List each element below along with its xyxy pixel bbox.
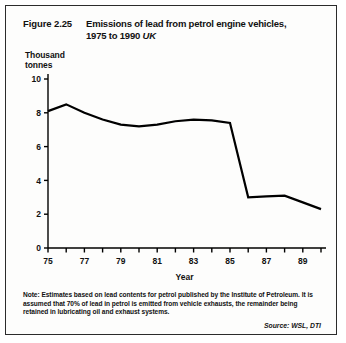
y-axis-tick-label: 4 [36, 176, 41, 186]
data-series-line [48, 104, 321, 209]
note-line1: Note: Estimates based on lead contents f… [23, 291, 265, 298]
x-axis-tick-label: 89 [298, 256, 308, 266]
x-axis-tick-label: 79 [116, 256, 126, 266]
y-axis-tick-label: 10 [32, 74, 42, 84]
figure-note: Note: Estimates based on lead contents f… [23, 291, 323, 317]
x-axis-tick-label: 81 [152, 256, 162, 266]
x-axis-tick-label: 85 [225, 256, 235, 266]
figure-source: Source: WSL, DTI [264, 322, 321, 329]
figure-panel: Figure 2.25 Emissions of lead from petro… [5, 5, 337, 335]
line-chart: 02468107577798183858789Year [6, 6, 338, 336]
x-axis-tick-label: 77 [80, 256, 90, 266]
y-axis-tick-label: 0 [36, 243, 41, 253]
x-axis-tick-label: 75 [43, 256, 53, 266]
y-axis-tick-label: 8 [36, 108, 41, 118]
y-axis-tick-label: 6 [36, 142, 41, 152]
x-axis-tick-label: 83 [189, 256, 199, 266]
x-axis-title: Year [176, 272, 195, 282]
y-axis-tick-label: 2 [36, 209, 41, 219]
x-axis-tick-label: 87 [262, 256, 272, 266]
